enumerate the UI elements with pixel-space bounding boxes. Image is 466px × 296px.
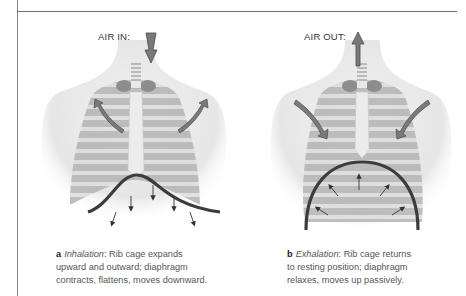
caption-term: Inhalation [64, 249, 104, 259]
caption-exhalation: bExhalation: Rib cage returns to resting… [287, 248, 462, 287]
panel-inhalation [42, 33, 227, 224]
caption-term: Exhalation [296, 249, 339, 259]
air-in-label: AIR IN: [98, 31, 130, 42]
air-out-label: AIR OUT: [304, 31, 346, 42]
sternum [128, 92, 144, 178]
caption-line: to resting position; diaphragm [287, 261, 462, 274]
lung-apex-left [116, 80, 132, 92]
panel-exhalation [271, 32, 452, 230]
caption-line: : Rib cage returns [339, 249, 412, 259]
lung-apex-right [140, 80, 156, 92]
trachea [131, 60, 141, 88]
lung-apex-right [366, 80, 382, 92]
caption-line: relaxes, moves up passively. [287, 274, 462, 287]
lung-apex-left [342, 80, 358, 92]
sternum [355, 92, 369, 158]
caption-letter: b [287, 249, 293, 259]
caption-letter: a [56, 249, 61, 259]
caption-line: contracts, flattens, moves downward. [56, 274, 246, 287]
caption-line: : Rib cage expands [104, 249, 183, 259]
caption-inhalation: aInhalation: Rib cage expands upward and… [56, 248, 246, 287]
caption-line: upward and outward; diaphragm [56, 261, 246, 274]
